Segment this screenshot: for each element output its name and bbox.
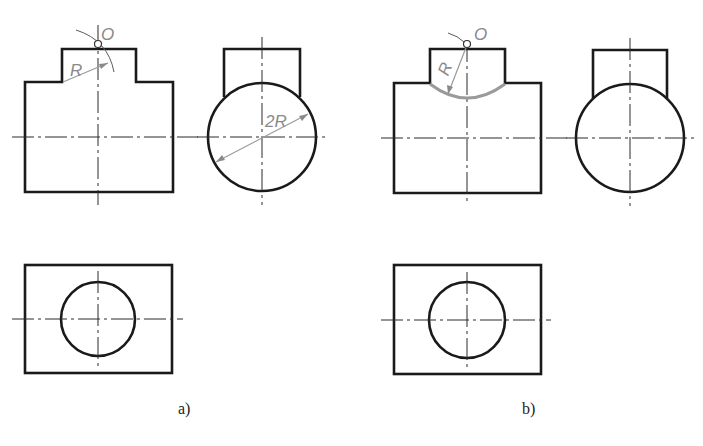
technical-drawing: O R 2R a) [0, 0, 703, 446]
diameter-label-a: 2R [264, 112, 287, 131]
front-view-b: O R [381, 25, 567, 205]
front-view-a-outline [25, 49, 173, 192]
diameter-arrow-start-icon [216, 155, 225, 162]
side-view-b [566, 38, 695, 206]
caption-a: a) [178, 400, 190, 418]
radius-label-a: R [70, 61, 82, 80]
radius-arrow-b-icon [447, 85, 453, 94]
panel-a: O R 2R a) [12, 25, 327, 418]
top-view-a [12, 265, 183, 373]
radius-arrow-a-icon [99, 63, 108, 69]
top-view-b [381, 265, 551, 374]
front-view-a: O R [12, 25, 198, 205]
point-o-label-a: O [101, 25, 114, 44]
caption-b: b) [522, 400, 535, 418]
point-o-b [464, 41, 471, 48]
radius-label-b: R [434, 60, 456, 79]
construction-arc-b [448, 33, 464, 42]
point-o-label-b: O [474, 25, 487, 44]
side-view-a: 2R [197, 37, 327, 205]
diameter-arrow-end-icon [299, 114, 308, 121]
panel-b: O R b) [381, 25, 695, 418]
